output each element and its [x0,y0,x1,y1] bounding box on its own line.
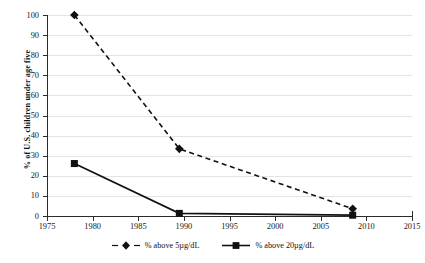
x-tick-label: 1995 [208,222,252,231]
x-tick-mark [230,217,231,221]
gridline [47,196,412,197]
y-tick-label: 80 [0,51,39,60]
series-1 [70,11,357,213]
x-tick-mark [47,217,48,221]
x-tick-label: 1975 [25,222,69,231]
data-point-diamond [348,204,357,213]
legend-item-above-5[interactable]: % above 5µg/dL [111,240,200,251]
x-tick-mark [412,217,413,221]
x-tick-label: 1985 [116,222,160,231]
x-tick-label: 2010 [344,222,388,231]
gridline [47,75,412,76]
y-tick-label: 90 [0,31,39,40]
legend-label-above-20: % above 20µg/dL [255,241,314,250]
x-axis-right-cap [412,211,413,217]
chart-legend: % above 5µg/dL % above 20µg/dL [0,240,425,251]
y-tick-label: 50 [0,111,39,120]
x-tick-mark [366,217,367,221]
y-tick-label: 10 [0,191,39,200]
y-tick-label: 0 [0,212,39,221]
x-tick-label: 1980 [71,222,115,231]
x-tick-mark [275,217,276,221]
gridline [47,95,412,96]
y-tick-label: 30 [0,151,39,160]
y-tick-label: 70 [0,71,39,80]
series-line [74,164,352,216]
x-tick-mark [184,217,185,221]
y-tick-label: 40 [0,131,39,140]
gridline [47,35,412,36]
legend-marker-diamond-dashed [111,240,141,251]
x-tick-mark [138,217,139,221]
gridline [47,136,412,137]
data-point-diamond [175,145,184,154]
y-tick-label: 100 [0,11,39,20]
series-line [74,15,352,209]
gridline [47,15,412,16]
gridline [47,55,412,56]
y-axis-line [47,15,48,217]
x-axis-line [47,216,413,217]
y-tick-label: 20 [0,171,39,180]
x-tick-label: 2000 [253,222,297,231]
x-tick-mark [93,217,94,221]
legend-label-above-5: % above 5µg/dL [145,241,200,250]
series-2 [71,160,356,219]
x-tick-mark [321,217,322,221]
legend-marker-square-solid [221,240,251,251]
gridline [47,156,412,157]
gridline [47,176,412,177]
legend-item-above-20[interactable]: % above 20µg/dL [221,240,314,251]
x-tick-label: 1990 [162,222,206,231]
x-tick-label: 2015 [390,222,425,231]
data-point-square [71,160,78,167]
y-tick-label: 60 [0,91,39,100]
x-tick-label: 2005 [299,222,343,231]
gridline [47,116,412,117]
chart-figure: % of U.S. children under age five 010203… [0,0,425,263]
